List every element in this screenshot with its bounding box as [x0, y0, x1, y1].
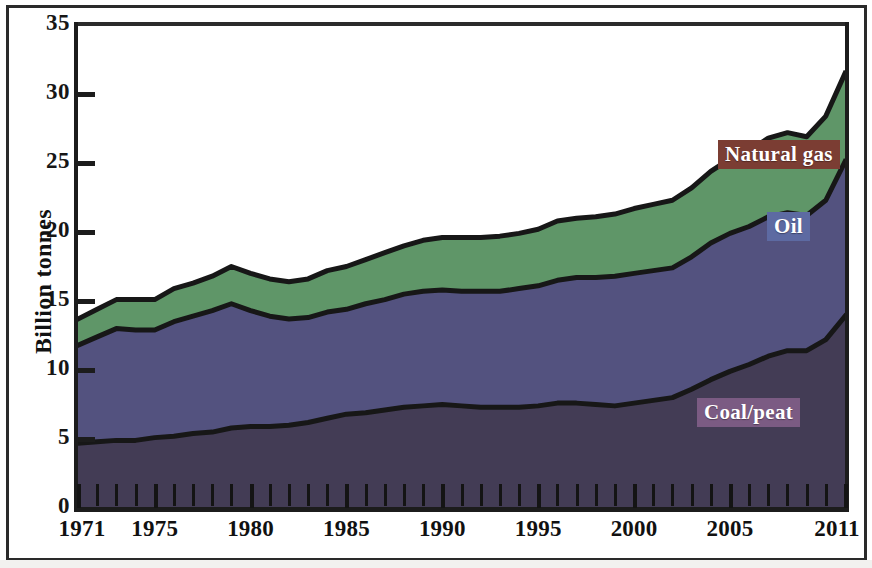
- x-axis-tick-labels: 197119751980198519901995200020052011: [0, 516, 872, 556]
- x-tick-2011: [844, 484, 848, 508]
- x-tick-1978: [211, 484, 214, 506]
- x-tick-2007: [767, 484, 770, 506]
- x-tick-2004: [710, 484, 713, 506]
- x-tick-1994: [518, 484, 521, 506]
- x-tick-1997: [576, 484, 579, 506]
- x-tick-1987: [384, 484, 387, 506]
- x-tick-label-2000: 2000: [611, 516, 658, 542]
- x-tick-2000: [633, 484, 637, 508]
- x-tick-1973: [115, 484, 118, 506]
- x-tick-1982: [288, 484, 291, 506]
- x-tick-1976: [173, 484, 176, 506]
- x-tick-1975: [154, 484, 158, 508]
- x-tick-1985: [345, 484, 349, 508]
- x-tick-1972: [96, 484, 99, 506]
- x-tick-label-1971: 1971: [59, 516, 106, 542]
- x-tick-2002: [671, 484, 674, 506]
- x-tick-2005: [729, 484, 733, 508]
- x-tick-label-1975: 1975: [131, 516, 178, 542]
- x-tick-2010: [825, 484, 828, 506]
- y-tick-20: [78, 230, 95, 235]
- x-tick-2003: [691, 484, 694, 506]
- y-axis-title: Billion tonnes: [30, 157, 57, 407]
- x-tick-label-1985: 1985: [323, 516, 370, 542]
- x-tick-1983: [307, 484, 310, 506]
- x-tick-1981: [269, 484, 272, 506]
- x-tick-1980: [250, 484, 254, 508]
- y-tick-15: [78, 299, 95, 304]
- x-tick-1992: [480, 484, 483, 506]
- x-tick-2001: [652, 484, 655, 506]
- x-tick-1989: [422, 484, 425, 506]
- x-tick-2008: [786, 484, 789, 506]
- x-tick-1991: [461, 484, 464, 506]
- stacked-area-chart: 05101520253035 Billion tonnes 1971197519…: [0, 0, 872, 568]
- x-tick-2006: [748, 484, 751, 506]
- x-tick-1998: [595, 484, 598, 506]
- x-tick-label-1995: 1995: [515, 516, 562, 542]
- x-tick-1999: [614, 484, 617, 506]
- x-tick-1988: [403, 484, 406, 506]
- series-label-natural-gas: Natural gas: [718, 140, 840, 169]
- x-tick-1996: [556, 484, 559, 506]
- plot-top-border: [78, 22, 849, 26]
- series-label-coal-peat: Coal/peat: [697, 398, 800, 427]
- x-tick-1995: [537, 484, 541, 508]
- x-tick-label-2011: 2011: [814, 516, 860, 542]
- x-tick-1974: [135, 484, 138, 506]
- x-tick-label-2005: 2005: [707, 516, 754, 542]
- x-tick-1990: [441, 484, 445, 508]
- x-tick-1971: [77, 484, 81, 508]
- chart-page: 05101520253035 Billion tonnes 1971197519…: [0, 0, 872, 568]
- x-tick-label-1980: 1980: [227, 516, 274, 542]
- plot-area: [78, 25, 845, 508]
- y-axis-title-wrap: Billion tonnes: [10, 0, 50, 568]
- plot-right-border: [845, 22, 849, 511]
- x-tick-1979: [230, 484, 233, 506]
- y-tick-10: [78, 368, 95, 373]
- area-series-svg: [78, 25, 845, 508]
- y-tick-25: [78, 161, 95, 166]
- x-tick-1993: [499, 484, 502, 506]
- x-tick-1977: [192, 484, 195, 506]
- y-tick-30: [78, 92, 95, 97]
- x-tick-2009: [806, 484, 809, 506]
- x-tick-1984: [326, 484, 329, 506]
- x-tick-label-1990: 1990: [419, 516, 466, 542]
- y-tick-5: [78, 437, 95, 442]
- x-tick-1986: [365, 484, 368, 506]
- series-label-oil: Oil: [767, 212, 810, 241]
